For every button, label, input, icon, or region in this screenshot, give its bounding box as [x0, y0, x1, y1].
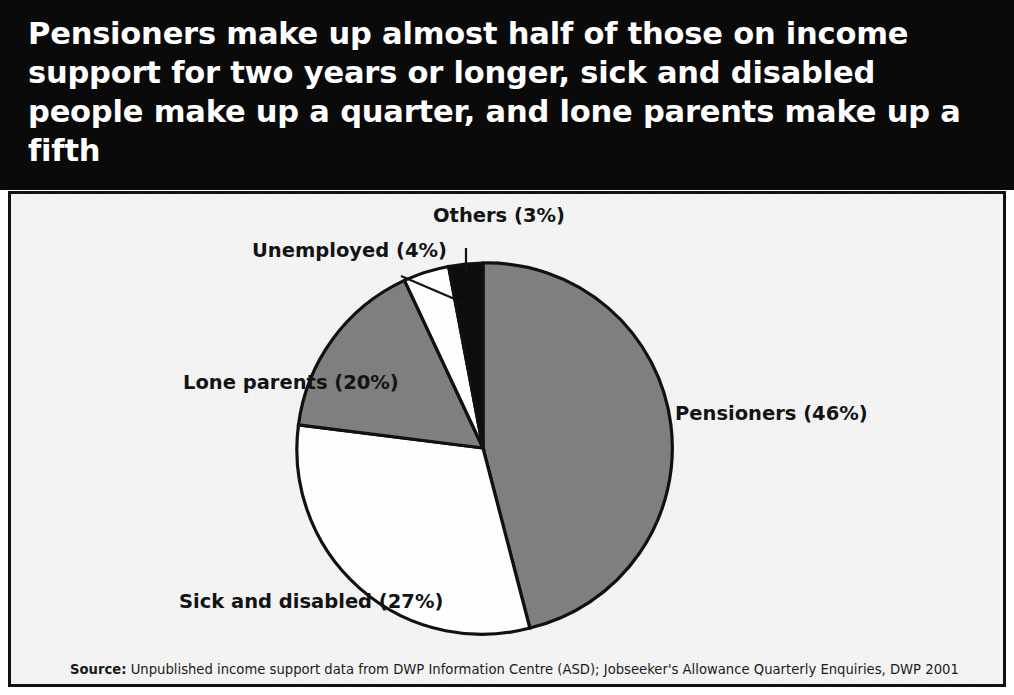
source-text: Unpublished income support data from DWP…: [127, 662, 959, 677]
chart-panel: Others (3%) Unemployed (4%) Lone parents…: [8, 191, 1006, 687]
pie-label-unemployed: Unemployed (4%): [252, 238, 447, 263]
pie-label-lone-parents: Lone parents (20%): [183, 370, 347, 395]
pie-label-others: Others (3%): [433, 203, 565, 228]
pie-label-sick-and-disabled: Sick and disabled (27%): [179, 589, 359, 614]
pie-chart: [0, 0, 1014, 695]
chart-page: Pensioners make up almost half of those …: [0, 0, 1014, 695]
pie-label-pensioners: Pensioners (46%): [675, 401, 868, 426]
source-label: Source:: [70, 662, 127, 677]
source-footer: Source: Unpublished income support data …: [8, 652, 1006, 687]
source-line: Source: Unpublished income support data …: [70, 662, 959, 677]
